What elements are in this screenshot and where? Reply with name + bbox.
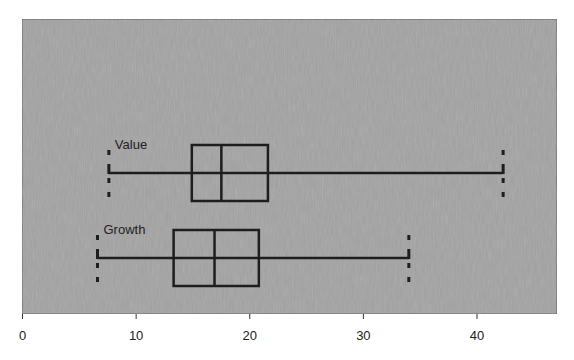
x-tick-label: 10	[129, 328, 143, 343]
boxplot-chart: 010203040 ValueGrowth	[0, 0, 574, 360]
x-tick-label: 20	[243, 328, 257, 343]
category-label: Value	[115, 137, 147, 152]
x-tick-label: 40	[470, 328, 484, 343]
plot-area	[22, 19, 557, 314]
x-tick-label: 0	[19, 328, 26, 343]
x-axis: 010203040	[19, 314, 484, 343]
x-tick-label: 30	[356, 328, 370, 343]
category-label: Growth	[103, 222, 145, 237]
